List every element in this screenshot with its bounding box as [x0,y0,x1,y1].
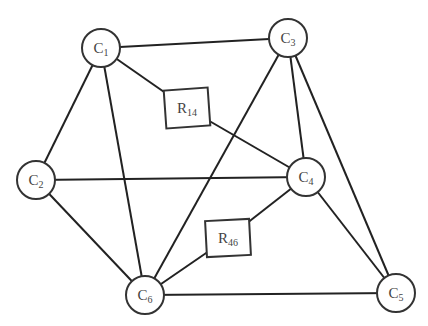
network-diagram: C1C2C3C4C5C6R14R46 [0,0,428,326]
node-c5: C5 [377,274,415,312]
edge-c1-c6 [101,48,145,295]
node-r14: R14 [164,88,211,129]
edge-c1-c3 [101,38,288,48]
node-r46: R46 [205,219,251,257]
node-c4: C4 [287,158,325,196]
edge-c2-c6 [36,180,145,295]
edge-c4-c5 [306,177,396,293]
edge-c1-c2 [36,48,101,180]
node-c3: C3 [269,19,307,57]
edge-c6-c5 [145,293,396,295]
node-c1: C1 [82,29,120,67]
node-c2: C2 [17,161,55,199]
node-c6: C6 [126,276,164,314]
edge-c2-c4 [36,177,306,180]
